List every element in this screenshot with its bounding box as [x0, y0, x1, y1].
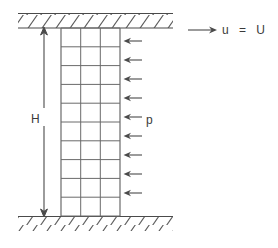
lower-wall	[18, 216, 173, 231]
pressure-arrow	[124, 171, 143, 177]
pressure-arrow	[124, 190, 143, 196]
pressure-arrow	[124, 114, 143, 120]
pressure-arrow	[124, 38, 143, 44]
computational-grid	[61, 28, 120, 216]
diagram-canvas	[0, 0, 278, 248]
velocity-condition-label: u = U	[222, 24, 266, 36]
pressure-arrow	[124, 76, 143, 82]
grid-horizontal-lines	[61, 28, 120, 216]
pressure-arrow	[124, 95, 143, 101]
wall-velocity-arrow	[188, 27, 217, 34]
height-dimension	[41, 27, 48, 217]
pressure-arrow	[124, 57, 143, 63]
pressure-arrow	[124, 133, 143, 139]
height-label: H	[31, 113, 40, 125]
pressure-arrow	[124, 152, 143, 158]
upper-wall-hatching	[18, 13, 173, 28]
flow-diagram: H p u = U	[0, 0, 278, 248]
pressure-load-arrows	[124, 38, 143, 196]
upper-wall	[18, 13, 173, 28]
lower-wall-hatching	[18, 216, 173, 231]
pressure-label: p	[146, 114, 153, 126]
